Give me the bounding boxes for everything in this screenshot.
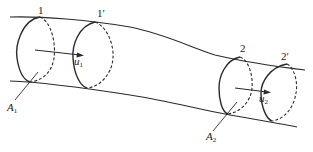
section-label-2-prime: 2′ [281, 51, 289, 62]
diagram-drawing [0, 0, 313, 152]
section-1p-back-arc [87, 22, 113, 88]
section-label-1-prime: 1′ [97, 8, 105, 19]
velocity-label-u1: u1 [74, 56, 83, 69]
section-2-front-arc [219, 57, 240, 114]
section-2p-back-arc [272, 64, 297, 121]
section-label-2: 2 [240, 43, 246, 54]
area-label-a1: A1 [7, 102, 17, 115]
section-1-back-arc [30, 17, 54, 82]
section-label-1: 1 [38, 5, 44, 16]
pipe-bottom-wall [10, 81, 297, 127]
area-leader-a1 [15, 72, 38, 100]
area-leader-a2 [213, 102, 237, 131]
area-label-a2: A2 [206, 131, 216, 144]
velocity-label-u2: u2 [259, 93, 268, 106]
pipe-flow-diagram: 1 1′ 2 2′ u1 u2 A1 A2 [0, 0, 313, 152]
section-1-front-arc [17, 17, 40, 82]
section-2-back-arc [228, 57, 252, 114]
